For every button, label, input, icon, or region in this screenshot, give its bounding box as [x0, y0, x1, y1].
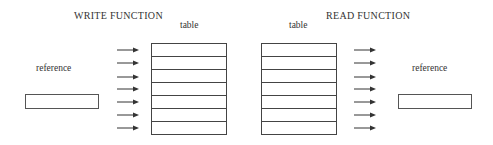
table-row — [152, 122, 226, 135]
arrow-right-icon — [354, 86, 376, 92]
arrow-right-icon — [117, 125, 139, 131]
write-table-label: table — [180, 20, 198, 30]
table-row — [262, 70, 336, 83]
arrow-right-icon — [354, 112, 376, 118]
table-row — [262, 57, 336, 70]
arrow-right-icon — [117, 47, 139, 53]
table-row — [152, 70, 226, 83]
table-row — [262, 109, 336, 122]
read-function-title: READ FUNCTION — [326, 10, 410, 21]
read-reference-label: reference — [412, 63, 447, 73]
read-table — [261, 43, 337, 135]
write-table — [151, 43, 227, 135]
write-reference-box — [25, 94, 99, 109]
arrow-right-icon — [354, 99, 376, 105]
write-reference-label: reference — [36, 63, 71, 73]
arrow-right-icon — [354, 60, 376, 66]
table-row — [262, 96, 336, 109]
table-row — [152, 96, 226, 109]
table-row — [152, 83, 226, 96]
table-row — [152, 44, 226, 57]
write-function-title: WRITE FUNCTION — [74, 10, 163, 21]
arrow-right-icon — [117, 99, 139, 105]
arrow-right-icon — [354, 125, 376, 131]
arrow-right-icon — [354, 47, 376, 53]
table-row — [152, 57, 226, 70]
arrow-right-icon — [354, 74, 376, 80]
arrow-right-icon — [117, 74, 139, 80]
table-row — [262, 83, 336, 96]
table-row — [262, 122, 336, 135]
table-row — [152, 109, 226, 122]
read-reference-box — [398, 94, 472, 109]
arrow-right-icon — [117, 60, 139, 66]
arrow-right-icon — [117, 86, 139, 92]
read-table-label: table — [289, 20, 307, 30]
table-row — [262, 44, 336, 57]
arrow-right-icon — [117, 112, 139, 118]
